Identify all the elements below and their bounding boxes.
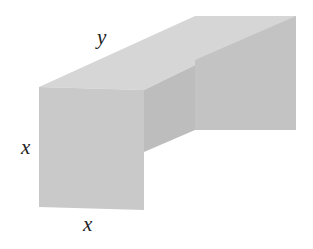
length-label-y: y	[97, 27, 106, 48]
width-label-x: x	[83, 214, 92, 235]
height-label-x: x	[21, 137, 30, 158]
front-face	[39, 87, 144, 210]
box-diagram	[0, 0, 313, 249]
